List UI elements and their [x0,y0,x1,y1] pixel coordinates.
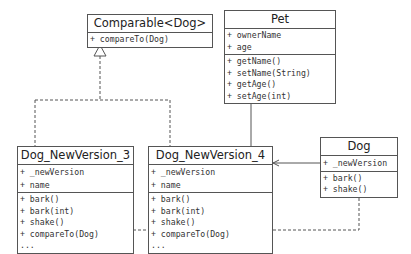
attribute: + _newVersion [151,166,272,179]
method: + setName(String) [227,68,335,80]
method-ellipsis: ... [151,240,272,252]
method-ellipsis: ... [20,240,133,252]
class-dog-newversion-3[interactable]: Dog_NewVersion_3 + _newVersion + name + … [17,146,134,254]
methods-section: + bark() + bark(int) + shake() + compare… [149,193,272,253]
method: + getName() [227,56,335,68]
class-name: Dog [321,138,397,156]
method: + shake() [323,184,397,196]
class-pet[interactable]: Pet + ownerName + age + getName() + setN… [224,10,336,104]
method: + getAge() [227,79,335,91]
attributes-section: + ownerName + age [225,29,335,55]
attribute: + age [227,42,335,54]
class-dog[interactable]: Dog + _newVersion + bark() + shake() [320,137,398,198]
attribute: + _newVersion [20,166,133,179]
attributes-section: + _newVersion + name [18,165,133,193]
attribute: + name [20,179,133,192]
method: + compareTo(Dog) [151,229,272,241]
method: + compareTo(Dog) [90,34,212,46]
methods-section: + compareTo(Dog) [88,33,212,47]
methods-section: + bark() + shake() [321,172,397,197]
method: + shake() [151,217,272,229]
methods-section: + bark() + bark(int) + shake() + compare… [18,193,133,253]
class-dog-newversion-4[interactable]: Dog_NewVersion_4 + _newVersion + name + … [148,146,273,254]
attributes-section: + _newVersion + name [149,165,272,193]
attribute: + name [151,179,272,192]
method: + bark(int) [20,206,133,218]
class-name: Dog_NewVersion_3 [18,147,133,165]
attributes-section: + _newVersion [321,156,397,172]
method: + compareTo(Dog) [20,229,133,241]
method: + bark(int) [151,206,272,218]
class-name: Comparable<Dog> [88,15,212,33]
class-comparable[interactable]: Comparable<Dog> + compareTo(Dog) [87,14,213,48]
method: + shake() [20,217,133,229]
method: + bark() [20,194,133,206]
methods-section: + getName() + setName(String) + getAge()… [225,55,335,103]
realization-line [35,56,170,146]
class-name: Dog_NewVersion_4 [149,147,272,165]
attribute: + ownerName [227,30,335,42]
method: + setAge(int) [227,91,335,103]
class-name: Pet [225,11,335,29]
method: + bark() [151,194,272,206]
method: + bark() [323,173,397,185]
attribute: + _newVersion [323,157,397,170]
